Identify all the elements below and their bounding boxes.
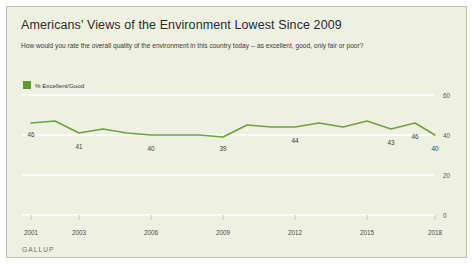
x-axis-label-2018: 2018 bbox=[420, 229, 450, 236]
data-label-2001: 46 bbox=[22, 131, 40, 138]
data-label-2018: 40 bbox=[426, 145, 444, 152]
y-axis-label-40: 40 bbox=[443, 132, 459, 139]
line-chart-svg bbox=[21, 91, 455, 223]
y-axis-label-20: 20 bbox=[443, 172, 459, 179]
x-axis-label-2015: 2015 bbox=[352, 229, 382, 236]
legend-label: % Excellent/Good bbox=[35, 82, 84, 89]
gallup-branding: GALLUP bbox=[22, 246, 55, 253]
chart-panel: Americans' Views of the Environment Lowe… bbox=[6, 6, 467, 258]
chart-legend: % Excellent/Good bbox=[23, 81, 84, 89]
x-axis-label-2009: 2009 bbox=[208, 229, 238, 236]
data-label-2012: 44 bbox=[286, 137, 304, 144]
x-axis-label-2006: 2006 bbox=[136, 229, 166, 236]
legend-swatch-icon bbox=[23, 81, 31, 89]
y-axis-label-0: 0 bbox=[443, 212, 459, 219]
data-label-2006: 40 bbox=[142, 145, 160, 152]
data-label-2016: 43 bbox=[382, 139, 400, 146]
x-axis-label-2012: 2012 bbox=[280, 229, 310, 236]
data-label-2009: 39 bbox=[214, 145, 232, 152]
x-axis-label-2003: 2003 bbox=[64, 229, 94, 236]
chart-subtitle: How would you rate the overall quality o… bbox=[21, 40, 381, 51]
data-label-2003: 41 bbox=[70, 143, 88, 150]
y-axis-label-60: 60 bbox=[443, 92, 459, 99]
x-axis-label-2001: 2001 bbox=[16, 229, 46, 236]
page-title: Americans' Views of the Environment Lowe… bbox=[21, 18, 342, 32]
plot-area bbox=[21, 91, 455, 223]
data-label-2017: 46 bbox=[406, 133, 424, 140]
